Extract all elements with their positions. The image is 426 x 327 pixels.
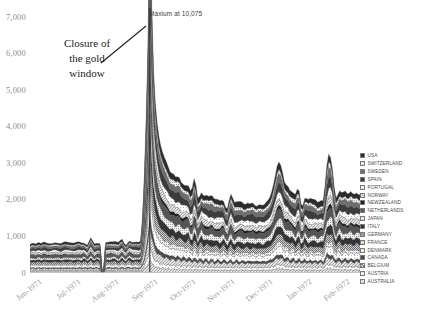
legend-item[interactable]: NEWZEALAND bbox=[360, 199, 404, 207]
y-axis-tick: 3,000 bbox=[0, 158, 26, 168]
legend-swatch bbox=[360, 240, 365, 245]
legend-swatch bbox=[360, 185, 365, 190]
legend-label: AUSTRIA bbox=[368, 271, 389, 276]
y-axis-tick: 6,000 bbox=[0, 48, 26, 58]
closure-annotation: Closure of the gold window bbox=[50, 36, 124, 81]
legend-swatch bbox=[360, 263, 365, 268]
legend-swatch bbox=[360, 169, 365, 174]
legend-swatch bbox=[360, 177, 365, 182]
y-axis-tick: 7,000 bbox=[0, 12, 26, 22]
legend-item[interactable]: FRANCE bbox=[360, 238, 404, 246]
legend-label: BELGIUM bbox=[368, 263, 390, 268]
y-axis-tick: 0 bbox=[0, 268, 26, 278]
legend-item[interactable]: DENMARK bbox=[360, 246, 404, 254]
y-axis-tick: 2,000 bbox=[0, 194, 26, 204]
legend-swatch bbox=[360, 271, 365, 276]
legend-swatch bbox=[360, 255, 365, 260]
legend-label: SPAIN bbox=[368, 177, 382, 182]
legend-swatch bbox=[360, 248, 365, 253]
legend-label: DENMARK bbox=[368, 248, 392, 253]
closure-line-1: Closure of bbox=[64, 37, 110, 49]
legend-swatch bbox=[360, 193, 365, 198]
legend-label: NEWZEALAND bbox=[368, 200, 402, 205]
legend-swatch bbox=[360, 208, 365, 213]
legend-item[interactable]: SWEDEN bbox=[360, 168, 404, 176]
legend-item[interactable]: AUSTRIA bbox=[360, 270, 404, 278]
legend-item[interactable]: CANADA bbox=[360, 254, 404, 262]
legend-item[interactable]: BELGIUM bbox=[360, 262, 404, 270]
y-axis-tick: 1,000 bbox=[0, 231, 26, 241]
closure-line-2: the gold bbox=[50, 51, 124, 66]
legend-item[interactable]: SPAIN bbox=[360, 176, 404, 184]
legend-label: JAPAN bbox=[368, 216, 383, 221]
legend-label: PORTUGAL bbox=[368, 185, 395, 190]
legend-label: USA bbox=[368, 153, 378, 158]
legend-swatch bbox=[360, 216, 365, 221]
legend-item[interactable]: ITALY bbox=[360, 223, 404, 231]
legend-item[interactable]: GERMANY bbox=[360, 230, 404, 238]
legend-item[interactable]: JAPAN bbox=[360, 215, 404, 223]
legend-item[interactable]: USA bbox=[360, 152, 404, 160]
legend-label: FRANCE bbox=[368, 240, 388, 245]
y-axis-tick: 4,000 bbox=[0, 121, 26, 131]
legend-item[interactable]: SWITZERLAND bbox=[360, 160, 404, 168]
legend-swatch bbox=[360, 153, 365, 158]
figure-area: 01,0002,0003,0004,0005,0006,0007,000 Jun… bbox=[0, 0, 426, 327]
legend-swatch bbox=[360, 224, 365, 229]
y-axis-tick: 5,000 bbox=[0, 85, 26, 95]
legend-item[interactable]: NETHERLANDS bbox=[360, 207, 404, 215]
legend-label: SWITZERLAND bbox=[368, 161, 403, 166]
maximum-annotation: Maxium at 10,075 bbox=[149, 10, 202, 17]
legend: USASWITZERLANDSWEDENSPAINPORTUGALNORWAYN… bbox=[360, 152, 404, 285]
legend-label: SWEDEN bbox=[368, 169, 389, 174]
legend-label: GERMANY bbox=[368, 232, 392, 237]
legend-item[interactable]: AUSTRALIA bbox=[360, 278, 404, 286]
legend-label: NORWAY bbox=[368, 193, 389, 198]
legend-item[interactable]: NORWAY bbox=[360, 191, 404, 199]
legend-swatch bbox=[360, 200, 365, 205]
legend-swatch bbox=[360, 279, 365, 284]
legend-item[interactable]: PORTUGAL bbox=[360, 183, 404, 191]
legend-label: AUSTRALIA bbox=[368, 279, 395, 284]
closure-line-3: window bbox=[50, 66, 124, 81]
legend-swatch bbox=[360, 161, 365, 166]
legend-label: CANADA bbox=[368, 255, 388, 260]
legend-swatch bbox=[360, 232, 365, 237]
legend-label: NETHERLANDS bbox=[368, 208, 404, 213]
legend-label: ITALY bbox=[368, 224, 381, 229]
